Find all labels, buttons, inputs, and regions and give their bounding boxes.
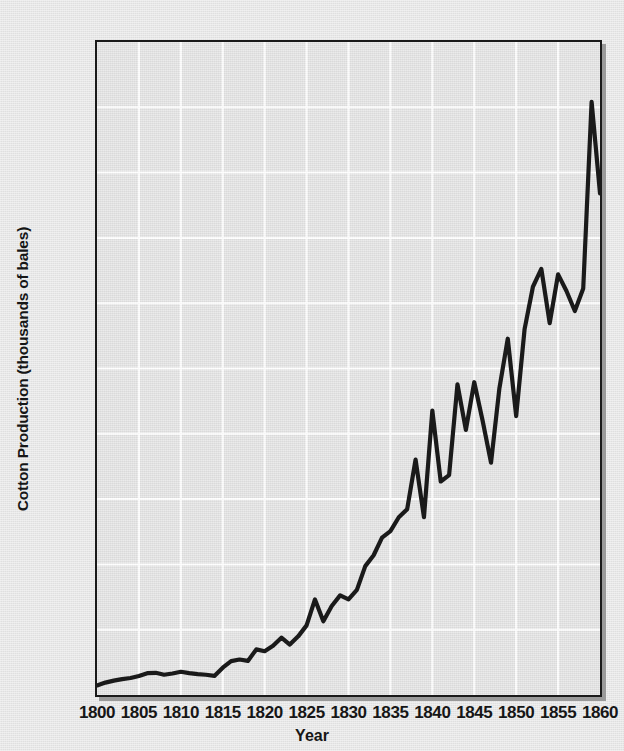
data-line-series [97,42,600,695]
cotton-production-chart-figure: 05001,0001,5002,0002,5003,0003,5004,0004… [0,0,624,751]
x-axis-tick-1820: 1820 [247,703,283,723]
x-axis-tick-1815: 1815 [205,703,241,723]
x-axis-tick-1850: 1850 [498,703,534,723]
x-axis-tick-1805: 1805 [121,703,157,723]
y-axis-title: Cotton Production (thousands of bales) [10,40,36,697]
x-axis-tick-1840: 1840 [414,703,450,723]
x-axis-tick-1845: 1845 [456,703,492,723]
x-axis-tick-1835: 1835 [372,703,408,723]
x-axis-tick-1860: 1860 [582,703,618,723]
plot-area [95,40,602,697]
y-axis-title-text: Cotton Production (thousands of bales) [14,226,32,510]
x-axis-tick-1825: 1825 [288,703,324,723]
x-axis-tick-1830: 1830 [330,703,366,723]
x-axis-tick-1800: 1800 [79,703,115,723]
x-axis-tick-1810: 1810 [163,703,199,723]
cotton-production-line [97,102,600,686]
x-axis-tick-1855: 1855 [540,703,576,723]
x-axis-title: Year [0,727,624,745]
